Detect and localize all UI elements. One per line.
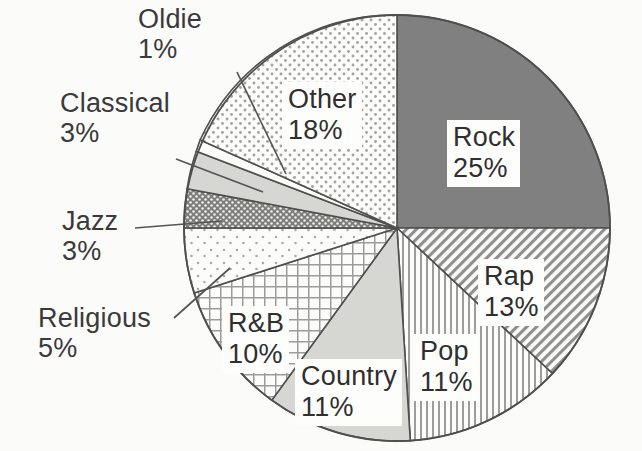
pie-label-religious-pct: 5% — [38, 333, 151, 363]
pie-label-rock-name: Rock — [453, 122, 515, 152]
pie-label-other-pct: 18% — [288, 115, 357, 146]
pie-label-oldie: Oldie 1% — [138, 4, 202, 64]
pie-label-oldie-pct: 1% — [138, 34, 202, 64]
pie-label-classical-name: Classical — [60, 88, 170, 118]
pie-chart-figure: Oldie 1% Classical 3% Jazz 3% Religious … — [0, 0, 642, 451]
pie-label-jazz-name: Jazz — [62, 206, 118, 236]
pie-label-classical-pct: 3% — [60, 118, 170, 148]
pie-label-jazz: Jazz 3% — [62, 206, 118, 266]
pie-label-rnb-name: R&B — [228, 308, 284, 338]
pie-label-other: Other 18% — [282, 82, 362, 149]
pie-label-rnb-pct: 10% — [228, 339, 284, 370]
pie-label-rap-pct: 13% — [484, 292, 539, 323]
pie-label-country: Country 11% — [295, 359, 402, 426]
pie-label-pop-name: Pop — [420, 336, 469, 366]
pie-label-oldie-name: Oldie — [138, 4, 202, 34]
pie-label-rnb: R&B 10% — [222, 306, 289, 373]
pie-label-pop-pct: 11% — [420, 367, 473, 398]
pie-label-religious: Religious 5% — [38, 303, 151, 363]
pie-label-rock: Rock 25% — [447, 120, 520, 187]
pie-label-country-name: Country — [301, 361, 397, 391]
pie-label-religious-name: Religious — [38, 303, 151, 333]
pie-label-classical: Classical 3% — [60, 88, 170, 148]
pie-label-rock-pct: 25% — [453, 153, 515, 184]
pie-label-other-name: Other — [288, 84, 357, 114]
pie-label-country-pct: 11% — [301, 392, 397, 423]
pie-label-rap: Rap 13% — [478, 259, 544, 326]
pie-label-rap-name: Rap — [484, 261, 534, 291]
pie-label-pop: Pop 11% — [414, 334, 478, 401]
pie-label-jazz-pct: 3% — [62, 236, 118, 266]
